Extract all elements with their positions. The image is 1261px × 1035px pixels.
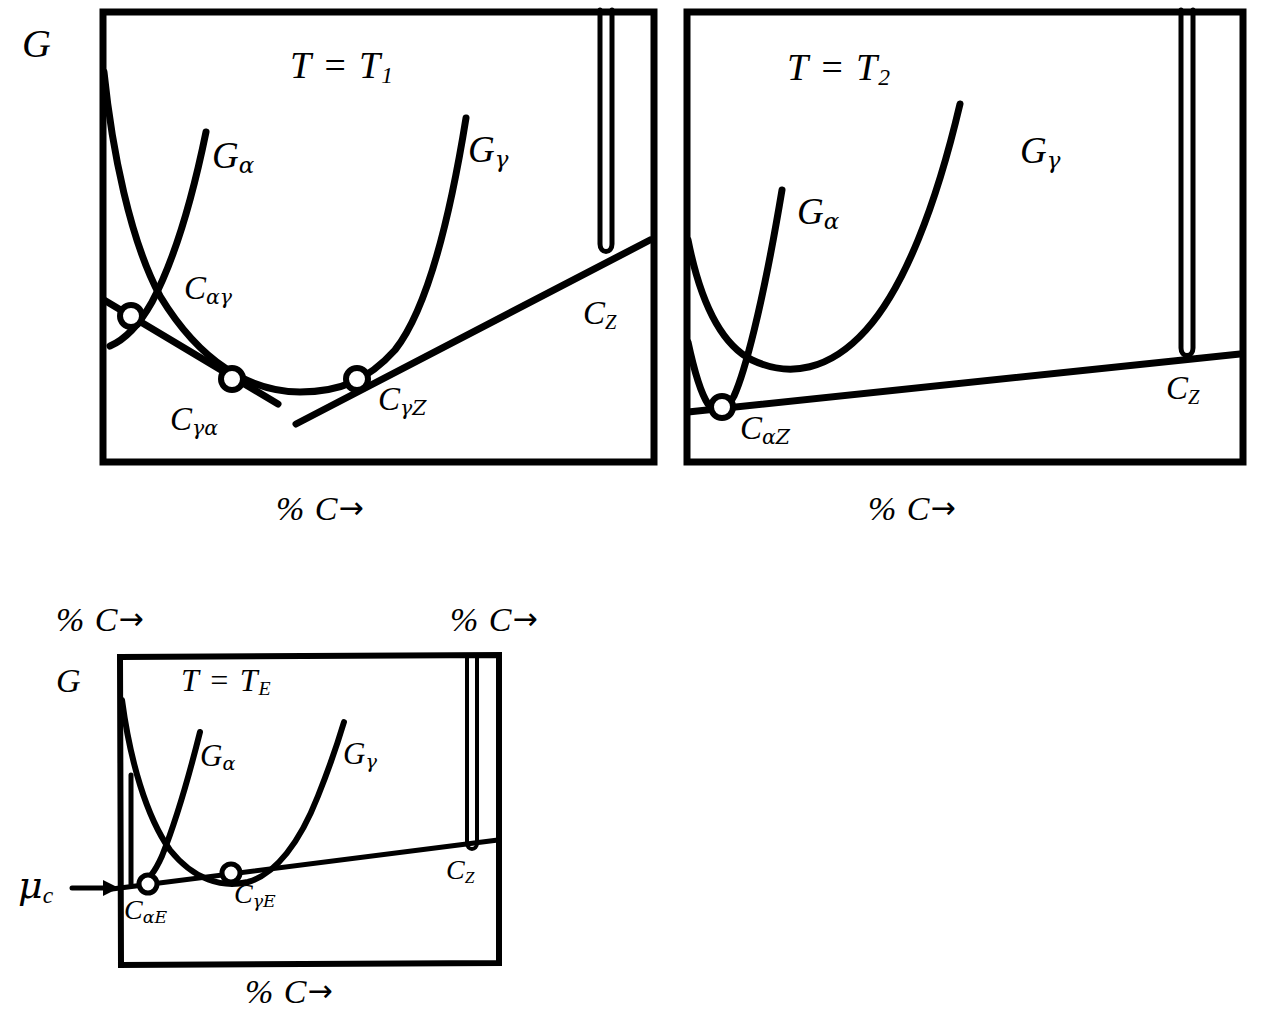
panel-3-marker-c-alpha-e — [139, 875, 157, 893]
panel-3-carbide-curve — [467, 656, 477, 849]
panel-3-g-alpha-label: Gα — [200, 740, 235, 773]
panel-3-top-right-axis-label: % C→ — [450, 603, 536, 637]
panel-3-temperature-label: T = TE — [181, 664, 271, 699]
panel-3-chemical-potential-label: μc — [18, 866, 53, 908]
panel-3-graphics — [0, 0, 1261, 1035]
panel-3-y-axis-label: G — [56, 664, 81, 698]
panel-3-top-left-axis-label: % C→ — [56, 603, 142, 637]
panel-3-label-c-gamma-e: CγE — [234, 880, 276, 910]
arrow-right-icon: → — [513, 601, 536, 636]
panel-3-label-c-alpha-e: CαE — [124, 896, 167, 926]
panel-3-g-gamma-curve — [122, 700, 344, 884]
arrow-right-icon: → — [119, 601, 142, 636]
panel-3-g-gamma-label: Gγ — [343, 738, 377, 771]
figure-canvas: G T = T1 Gα Gγ Cαγ Cγα CγZ CZ % C→ — [0, 0, 1261, 1035]
panel-3-x-axis-label: % C→ — [245, 975, 331, 1009]
panel-3-mu-arrow-icon — [72, 880, 119, 896]
panel-3-label-c-z: CZ — [446, 856, 474, 886]
arrow-right-icon: → — [308, 973, 331, 1008]
